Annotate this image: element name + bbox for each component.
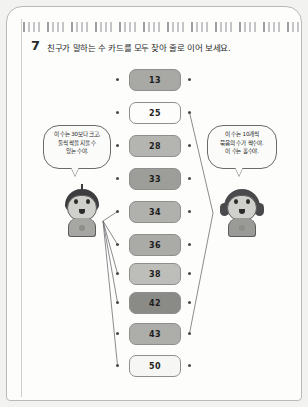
connector-dot-left[interactable] [116, 301, 119, 304]
connector-dot-right[interactable] [188, 177, 191, 180]
connector-dot-left[interactable] [116, 243, 119, 246]
number-card-38[interactable]: 38 [129, 263, 181, 285]
connector-dot-left[interactable] [116, 332, 119, 335]
bubble-right-line-1: 이 수는 10개씩 [213, 130, 271, 139]
number-card-row: 33 [115, 168, 195, 190]
speech-bubble-girl: 이 수는 10개씩 묶음의 수가 짝수야. 이 수는 홀수야. [207, 125, 277, 169]
number-card-row: 25 [115, 102, 195, 124]
girl-eye-left-icon [234, 199, 238, 204]
number-card-50[interactable]: 50 [129, 355, 181, 377]
number-card-row: 13 [115, 69, 195, 91]
bubble-left-line-1: 이 수는 30보다 크고, [49, 130, 105, 139]
boy-eye-left-icon [74, 199, 78, 204]
connector-dot-left[interactable] [116, 364, 119, 367]
connector-dot-left[interactable] [116, 177, 119, 180]
speech-bubble-boy: 이 수는 30보다 크고, 둘씩 짝을 지을 수 있는 수야. [43, 125, 111, 169]
speech-bubble-boy-tail [71, 167, 79, 176]
number-card-42[interactable]: 42 [129, 292, 181, 314]
connector-dot-left[interactable] [116, 111, 119, 114]
number-card-row: 42 [115, 292, 195, 314]
connector-dot-right[interactable] [188, 272, 191, 275]
bubble-left-line-2: 둘씩 짝을 지을 수 [49, 139, 105, 148]
connector-dot-left[interactable] [116, 272, 119, 275]
number-card-34[interactable]: 34 [129, 201, 181, 223]
number-card-row: 28 [115, 135, 195, 157]
number-card-row: 34 [115, 201, 195, 223]
girl-character [219, 187, 265, 237]
number-card-row: 36 [115, 234, 195, 256]
connector-dot-right[interactable] [188, 301, 191, 304]
number-card-row: 38 [115, 263, 195, 285]
boy-eye-right-icon [86, 199, 90, 204]
girl-shirt-badge-icon [239, 225, 245, 231]
connector-dot-right[interactable] [188, 243, 191, 246]
number-card-row: 43 [115, 323, 195, 345]
number-card-28[interactable]: 28 [129, 135, 181, 157]
bubble-right-line-2: 묶음의 수가 짝수야. [213, 139, 271, 148]
connector-dot-right[interactable] [188, 332, 191, 335]
speech-bubble-girl-tail [235, 167, 243, 176]
number-card-43[interactable]: 43 [129, 323, 181, 345]
connector-dot-left[interactable] [116, 78, 119, 81]
bubble-right-line-3: 이 수는 홀수야. [213, 147, 271, 156]
connector-dot-right[interactable] [188, 364, 191, 367]
connector-dot-left[interactable] [116, 210, 119, 213]
number-card-36[interactable]: 36 [129, 234, 181, 256]
connector-dot-left[interactable] [116, 144, 119, 147]
bubble-left-line-3: 있는 수야. [49, 147, 105, 156]
number-card-row: 50 [115, 355, 195, 377]
connector-dot-right[interactable] [188, 78, 191, 81]
boy-character [59, 187, 105, 237]
worksheet-sheet: 7 친구가 말하는 수 카드를 모두 찾아 줄로 이어 보세요. 1325283… [6, 6, 302, 401]
worksheet-page: 7 친구가 말하는 수 카드를 모두 찾아 줄로 이어 보세요. 1325283… [0, 0, 308, 407]
number-card-13[interactable]: 13 [129, 69, 181, 91]
connector-dot-right[interactable] [188, 111, 191, 114]
number-card-25[interactable]: 25 [129, 102, 181, 124]
girl-eye-right-icon [246, 199, 250, 204]
connector-dot-right[interactable] [188, 144, 191, 147]
boy-shirt-badge-icon [79, 225, 85, 231]
number-card-33[interactable]: 33 [129, 168, 181, 190]
connector-dot-right[interactable] [188, 210, 191, 213]
